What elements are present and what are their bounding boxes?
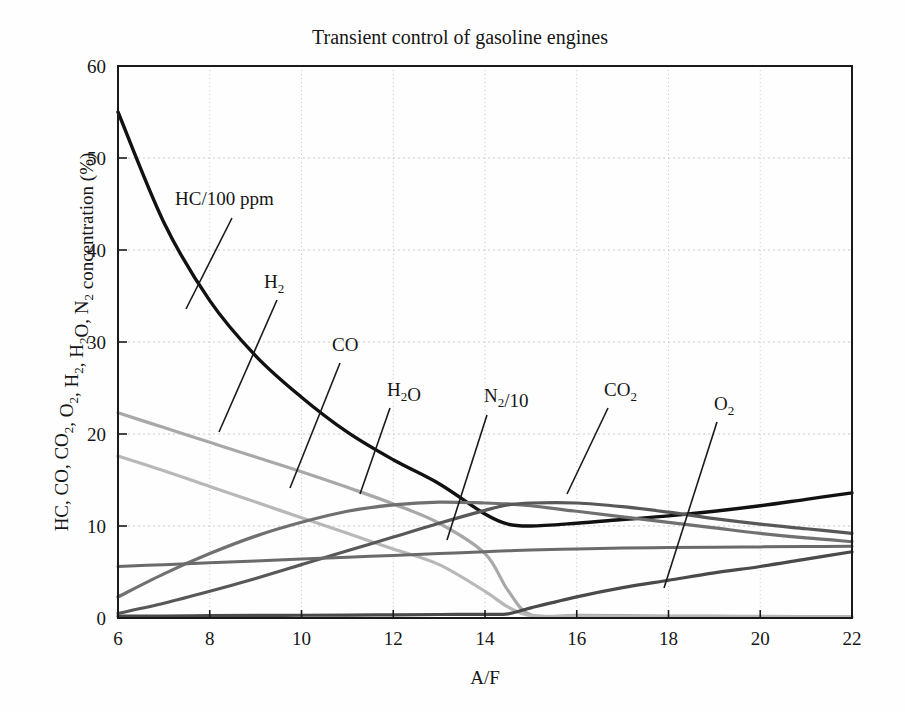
series-label: HC/100 ppm	[175, 188, 274, 209]
curve-n2-10	[118, 546, 852, 566]
x-tick-label: 10	[292, 628, 311, 649]
x-tick-label: 20	[751, 628, 770, 649]
x-tick-label: 8	[205, 628, 215, 649]
leader-line	[290, 363, 340, 488]
series-label: H2	[264, 271, 284, 296]
x-tick-label: 16	[567, 628, 586, 649]
figure-container: 68101214161820220102030405060 HC/100 ppm…	[0, 0, 905, 712]
x-tick-label: 18	[659, 628, 678, 649]
leader-line	[567, 408, 608, 494]
series-label: H2O	[387, 379, 421, 405]
gridlines	[118, 66, 852, 618]
leader-line	[360, 408, 390, 494]
chart-title: Transient control of gasoline engines	[312, 26, 608, 49]
y-axis-label: HC, CO, CO2, O2, H2, H2O, N2 concentrati…	[51, 153, 98, 532]
x-tick-label: 22	[843, 628, 862, 649]
series-label: CO	[332, 334, 358, 355]
y-tick-label: 60	[87, 56, 106, 77]
x-tick-label: 12	[384, 628, 403, 649]
y-tick-label: 0	[97, 608, 107, 629]
y-tick-label: 20	[87, 424, 106, 445]
leader-line	[664, 422, 717, 588]
series-label: CO2	[604, 379, 637, 404]
x-tick-label: 14	[476, 628, 496, 649]
axis-tick-labels: 68101214161820220102030405060	[87, 56, 862, 649]
series-label: O2	[714, 393, 734, 418]
leader-line	[186, 218, 232, 309]
chart-svg: 68101214161820220102030405060 HC/100 ppm…	[0, 0, 905, 712]
curve-h2	[118, 456, 852, 617]
x-axis-label: A/F	[470, 667, 500, 688]
x-tick-label: 6	[113, 628, 123, 649]
series-label: N2/10	[484, 385, 529, 411]
series-annotations: HC/100 ppmH2COH2ON2/10CO2O2	[175, 188, 734, 588]
y-tick-label: 10	[87, 516, 106, 537]
